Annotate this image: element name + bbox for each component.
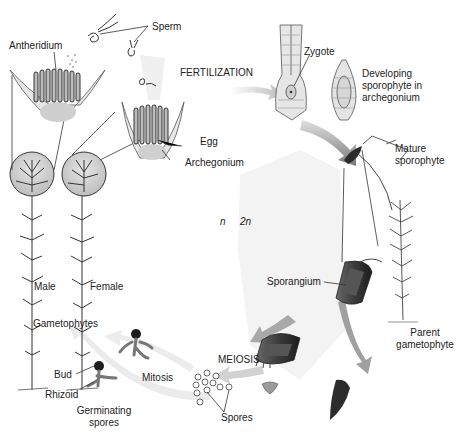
label-ploidy-2n: 2n [240,216,251,228]
zygote-archegonium [276,25,307,120]
label-sporangium: Sporangium [267,276,321,288]
label-archegonium: Archegonium [185,157,244,169]
label-bud: Bud [54,369,72,381]
label-male: Male [34,281,56,293]
label-female: Female [90,281,123,293]
antheridium-illustration [10,54,105,122]
label-mature-sporophyte: Mature sporophyte [395,143,444,167]
moss-life-cycle-diagram: Sperm Antheridium FERTILIZATION Zygote D… [0,0,457,432]
label-ploidy-n: n [220,216,226,228]
label-germinating-spores: Germinating spores [72,405,136,429]
developing-sporophyte [332,60,356,120]
label-egg: Egg [200,136,218,148]
label-parent-gametophyte: Parent gametophyte [395,327,455,351]
sporangium-zoom-lines [342,150,378,262]
label-meiosis: MEIOSIS [218,354,260,366]
calyptra [262,380,350,420]
label-mitosis: Mitosis [142,372,173,384]
label-gametophytes: Gametophytes [33,318,98,330]
archegonium-illustration [122,102,184,160]
label-fertilization: FERTILIZATION [180,67,253,79]
parent-gametophyte [388,200,418,322]
spores-leader [207,390,229,412]
protonema-mitosis [120,329,152,358]
label-zygote: Zygote [304,46,335,58]
label-rhizoid: Rhizoid [45,389,78,401]
label-spores: Spores [221,412,253,424]
label-antheridium: Antheridium [9,40,62,52]
label-developing-sporophyte: Developing sporophyte in archegonium [362,68,422,104]
label-sperm: Sperm [152,21,181,33]
diagram-artwork [0,0,457,432]
